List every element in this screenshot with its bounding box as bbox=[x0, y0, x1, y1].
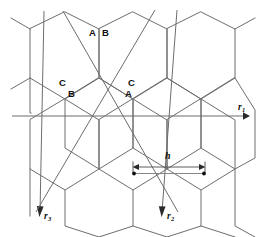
axis-r3-arrowhead bbox=[37, 206, 44, 217]
hexagon-cell bbox=[65, 190, 99, 237]
axis-label-r3-subscript: 3 bbox=[48, 215, 51, 222]
figure-canvas bbox=[0, 0, 260, 237]
site-label-a-top: A bbox=[89, 28, 96, 38]
site-label-a-right: A bbox=[125, 89, 132, 99]
lattice-point-right bbox=[202, 172, 206, 176]
hexagon-cell bbox=[99, 190, 133, 237]
mirror-trace-group bbox=[36, 10, 178, 212]
axis-r2-arrowhead bbox=[159, 206, 166, 217]
dimension-label-h: h bbox=[165, 151, 171, 161]
axis-r2-line bbox=[162, 10, 177, 212]
axis-r1-group bbox=[12, 112, 250, 120]
hexagon-cell bbox=[201, 226, 235, 237]
hexagon-cell bbox=[167, 12, 235, 99]
mirror-trace-ne bbox=[36, 10, 155, 212]
dimension-h-group bbox=[132, 162, 206, 176]
hex-lattice-figure: A B C B C A r1 r2 r3 h bbox=[0, 0, 260, 237]
hexagon-cell bbox=[11, 18, 30, 29]
axis-label-r1: r1 bbox=[238, 103, 245, 113]
site-label-b-left: B bbox=[68, 89, 75, 99]
axis-label-r2: r2 bbox=[167, 212, 174, 222]
hexagon-cell bbox=[235, 169, 255, 237]
site-label-c-left: C bbox=[59, 78, 66, 88]
hexagon-cell bbox=[235, 18, 255, 29]
hexagon-cell bbox=[201, 78, 255, 169]
axis-r2-group bbox=[159, 10, 177, 217]
hexagon-cell bbox=[30, 78, 31, 113]
dimension-h-arrowhead-left bbox=[133, 164, 140, 170]
lattice-point-left bbox=[132, 172, 136, 176]
dimension-h-arrowhead-right bbox=[199, 164, 206, 170]
site-label-c-right: C bbox=[128, 78, 135, 88]
hexagon-lattice bbox=[11, 12, 255, 237]
axis-r1-arrowhead bbox=[243, 112, 250, 120]
axis-label-r3: r3 bbox=[44, 212, 51, 222]
hexagon-cell bbox=[11, 78, 30, 89]
axis-label-r2-subscript: 2 bbox=[171, 215, 174, 222]
site-label-b-top: B bbox=[102, 28, 109, 38]
hexagon-cell bbox=[133, 226, 167, 237]
axis-label-r1-subscript: 1 bbox=[242, 106, 245, 113]
